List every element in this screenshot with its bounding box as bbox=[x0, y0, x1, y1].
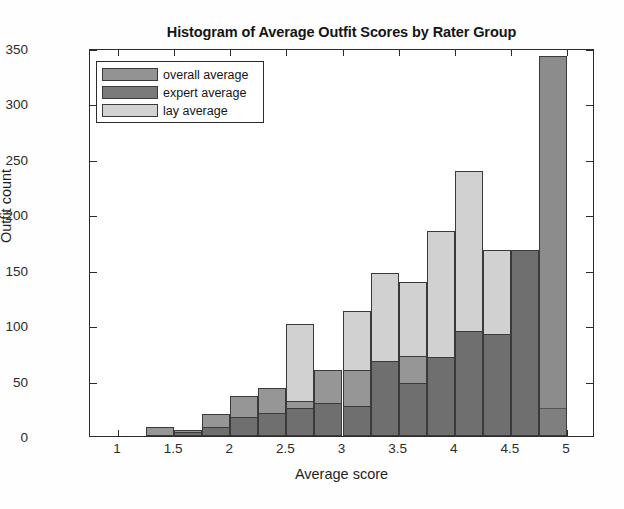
legend-label-expert: expert average bbox=[163, 86, 246, 100]
y-tick-label: 250 bbox=[5, 152, 28, 167]
histogram-bar bbox=[146, 427, 174, 436]
x-tick-label: 4 bbox=[450, 441, 458, 456]
legend-swatch-overall-icon bbox=[102, 68, 158, 81]
histogram-bar bbox=[174, 432, 202, 436]
x-axis-title: Average score bbox=[89, 466, 594, 482]
histogram-bar bbox=[511, 250, 539, 436]
x-tick-label: 4.5 bbox=[500, 441, 519, 456]
legend-swatch-lay-icon bbox=[102, 104, 158, 117]
chart-title: Histogram of Average Outfit Scores by Ra… bbox=[89, 24, 594, 40]
histogram-bar bbox=[427, 357, 455, 436]
x-tick-label: 2 bbox=[226, 441, 234, 456]
y-tick-label: 50 bbox=[13, 374, 28, 389]
y-tick-label: 350 bbox=[5, 42, 28, 57]
x-tick-label: 5 bbox=[562, 441, 570, 456]
histogram-bar bbox=[371, 361, 399, 436]
histogram-bar bbox=[539, 56, 567, 436]
histogram-bar bbox=[483, 334, 511, 436]
legend-item-overall: overall average bbox=[102, 66, 258, 83]
x-tick-label: 2.5 bbox=[276, 441, 295, 456]
histogram-bar bbox=[314, 403, 342, 436]
histogram-figure: Histogram of Average Outfit Scores by Ra… bbox=[0, 0, 624, 509]
legend-swatch-expert-icon bbox=[102, 86, 158, 99]
histogram-bar bbox=[286, 408, 314, 436]
y-tick-label: 100 bbox=[5, 319, 28, 334]
x-tick-label: 1.5 bbox=[164, 441, 183, 456]
histogram-bar bbox=[399, 383, 427, 436]
legend-label-lay: lay average bbox=[163, 104, 228, 118]
legend-label-overall: overall average bbox=[163, 68, 248, 82]
y-tick-label: 200 bbox=[5, 208, 28, 223]
legend-item-expert: expert average bbox=[102, 84, 258, 101]
y-tick-label: 300 bbox=[5, 97, 28, 112]
x-tick-label: 3.5 bbox=[388, 441, 407, 456]
histogram-bar bbox=[343, 406, 371, 436]
legend-item-lay: lay average bbox=[102, 102, 258, 119]
histogram-bar bbox=[230, 417, 258, 436]
chart-legend: overall average expert average lay avera… bbox=[96, 61, 264, 123]
y-axis-title: Outfit count bbox=[0, 169, 14, 243]
histogram-bar bbox=[455, 331, 483, 436]
x-tick-label: 1 bbox=[113, 441, 121, 456]
x-tick-label: 3 bbox=[338, 441, 346, 456]
y-tick-label: 150 bbox=[5, 263, 28, 278]
histogram-bar bbox=[202, 427, 230, 436]
histogram-bar bbox=[258, 413, 286, 436]
y-tick-label: 0 bbox=[20, 430, 28, 445]
